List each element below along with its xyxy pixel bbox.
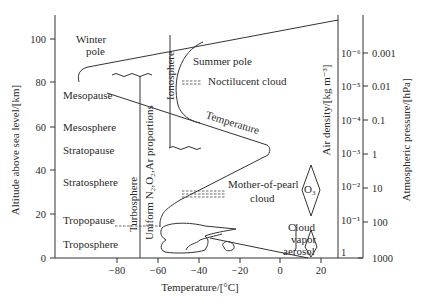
stratosphere-label: Stratosphere [63,176,118,188]
ozone-label: O₃ [304,183,316,195]
stratopause-label: Stratopause [63,144,114,156]
density-axis: 10⁻⁶ 10⁻⁵ 10⁻⁴ 10⁻³ 10⁻² 10⁻¹ 1 Air dens… [320,15,361,258]
winter-pole-label: Winter [76,33,106,45]
mesosphere-label: Mesosphere [63,121,116,133]
troposphere-label: Troposphere [63,238,118,250]
mother-of-pearl-cloud: Mother-of-pearl cloud [182,178,299,204]
density-tick: 10⁻⁶ [341,48,361,59]
ozone-diamond: O₃ [302,165,320,216]
x-tick: −80 [109,265,125,276]
pressure-tick: 100 [372,217,388,228]
pressure-tick: 1 [372,149,377,160]
density-tick: 10⁻⁵ [341,81,361,92]
density-tick: 1 [341,247,346,258]
temperature-curve-label: Temperature [204,108,261,136]
y-tick: 80 [36,77,47,88]
y-axis-label: Altitude above sea level/[km] [9,85,21,215]
mesopause-label: Mesopause [63,89,113,101]
x-tick: 20 [316,265,327,276]
noctilucent-label: Noctilucent cloud [208,75,287,87]
altitude-axis: 0 20 40 60 80 100 Altitude above sea lev… [9,15,55,264]
density-tick: 10⁻² [341,181,360,192]
cloud-label: Cloud [288,221,315,233]
atmosphere-diagram: 0 20 40 60 80 100 Altitude above sea lev… [0,0,423,307]
tropopause-label: Tropopause [63,214,115,226]
density-tick: 10⁻³ [341,148,360,159]
y-tick: 60 [36,122,47,133]
pressure-tick: 0.01 [372,81,390,92]
temperature-curves [78,20,338,227]
pressure-tick: 1000 [372,253,393,264]
x-tick: 0 [277,265,282,276]
winter-pole-label: pole [86,45,105,57]
vapor-label: vapor [291,233,316,245]
cloud-vapor-aerosol: Cloud vapor aerosol [210,221,316,258]
x-tick: −60 [150,265,166,276]
pressure-tick: 10 [372,183,383,194]
pressure-tick: 0.001 [372,48,396,59]
density-tick: 10⁻¹ [341,215,360,226]
mother-of-pearl-label: cloud [250,192,275,204]
pressure-axis-label: Atmospheric pressure/[hPa] [400,78,412,201]
turbosphere-label: Turbosphere [127,177,139,232]
layer-labels: Winter pole Summer pole Mesopause Mesosp… [63,33,252,250]
y-tick: 20 [36,209,47,220]
aerosol-label: aerosol [283,245,315,257]
summer-pole-label: Summer pole [193,55,252,67]
ionosphere-label: Ionosphere [164,51,176,100]
density-axis-label: Air density/[kg m⁻³] [320,65,332,156]
x-tick: −40 [191,265,207,276]
ionosphere-bracket: Ionosphere [164,35,201,150]
pressure-tick: 0.1 [372,115,385,126]
density-tick: 10⁻⁴ [341,115,361,126]
x-axis-label: Temperature/[°C] [161,281,239,293]
temperature-axis: −80 −60 −40 −20 0 20 Temperature/[°C] [55,258,363,293]
mother-of-pearl-label: Mother-of-pearl [228,178,299,190]
noctilucent-cloud: Noctilucent cloud [182,75,287,87]
x-tick: −20 [232,265,248,276]
uniform-proportions-label: Uniform N₂,O₂,Ar proportions [143,105,155,240]
y-tick: 0 [41,253,46,264]
y-tick: 100 [30,34,46,45]
cloud-shapes [161,223,236,253]
y-tick: 40 [36,165,47,176]
pressure-axis: 0.001 0.01 0.1 1 10 100 1000 Atmospheric… [358,15,412,264]
